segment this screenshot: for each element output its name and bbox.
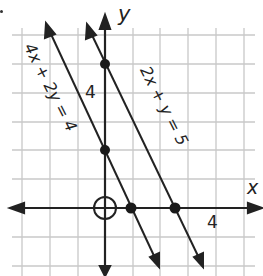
x-axis-left-arrow-icon (10, 203, 24, 213)
point-1-0 (126, 203, 137, 214)
y-axis-up-arrow-icon (100, 15, 110, 29)
x-tick-label: 4 (207, 212, 218, 232)
point-2-5-0 (170, 203, 181, 214)
coordinate-plane (0, 0, 263, 276)
y-tick-label: 4 (85, 82, 96, 102)
line-4x-2y-4 (45, 23, 159, 267)
x-axis-right-arrow-icon (248, 203, 262, 213)
x-axis-label: x (247, 176, 258, 198)
y-axis-label: y (118, 2, 130, 26)
y-axis-down-arrow-icon (100, 266, 110, 276)
point-0-5 (100, 59, 110, 69)
point-0-2 (100, 145, 110, 155)
